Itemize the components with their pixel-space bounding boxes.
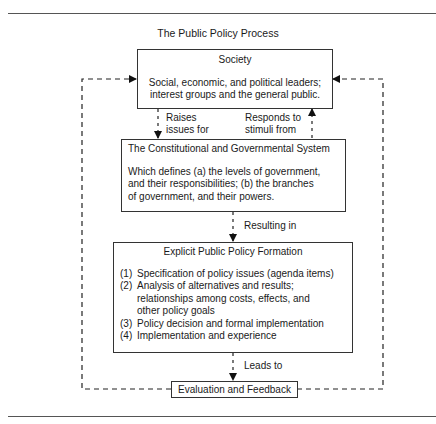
constitutional-body-line: of government, and their powers. — [128, 191, 345, 204]
item-number: (3) — [120, 318, 137, 331]
society-box: Society Social, economic, and political … — [137, 49, 333, 109]
evaluation-box: Evaluation and Feedback — [171, 381, 298, 398]
resulting-label: Resulting in — [244, 220, 296, 232]
formation-item: (3) Policy decision and formal implement… — [120, 318, 352, 331]
society-heading: Society — [138, 54, 332, 67]
constitutional-body-line: Which defines (a) the levels of governme… — [128, 166, 345, 179]
constitutional-box: The Constitutional and Governmental Syst… — [121, 139, 346, 212]
society-body-line: Social, economic, and political leaders; — [138, 77, 332, 90]
item-text: Policy decision and formal implementatio… — [137, 318, 324, 331]
leads-label: Leads to — [244, 360, 282, 372]
item-number: (4) — [120, 330, 137, 343]
formation-heading: Explicit Public Policy Formation — [114, 246, 352, 259]
raises-label: Raises issues for — [166, 112, 209, 136]
item-text: Implementation and experience — [137, 330, 277, 343]
formation-item: (2) Analysis of alternatives and results… — [120, 280, 352, 318]
constitutional-body-line: and their responsibilities; (b) the bran… — [128, 178, 345, 191]
constitutional-heading: The Constitutional and Governmental Syst… — [128, 143, 345, 156]
item-number: (1) — [120, 268, 137, 281]
formation-item: (4) Implementation and experience — [120, 330, 352, 343]
responds-line: stimuli from — [245, 124, 301, 136]
item-text: Specification of policy issues (agenda i… — [137, 268, 334, 281]
formation-box: Explicit Public Policy Formation (1) Spe… — [113, 242, 353, 353]
responds-label: Responds to stimuli from — [245, 112, 301, 136]
society-body-line: interest groups and the general public. — [138, 89, 332, 102]
item-text: Analysis of alternatives and results; — [137, 280, 310, 293]
responds-line: Responds to — [245, 112, 301, 124]
item-number: (2) — [120, 280, 137, 318]
formation-item: (1) Specification of policy issues (agen… — [120, 268, 352, 281]
raises-line: Raises — [166, 112, 209, 124]
item-text: relationships among costs, effects, and — [137, 293, 310, 306]
item-text: other policy goals — [137, 305, 310, 318]
raises-line: issues for — [166, 124, 209, 136]
